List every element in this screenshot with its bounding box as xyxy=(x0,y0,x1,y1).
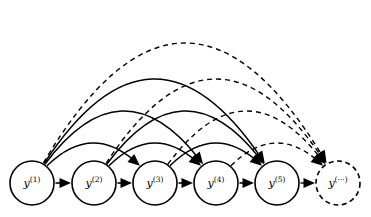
arrowhead-chain-y3-to-y4 xyxy=(182,178,194,188)
node-ydots[interactable]: y(···) xyxy=(316,161,360,205)
node-y4[interactable]: y(4) xyxy=(194,161,238,205)
skip-edge-y1-to-ydots xyxy=(43,43,322,163)
skip-edge-layer xyxy=(43,43,326,166)
node-label-superscript-y1: (1) xyxy=(30,175,41,184)
node-y1[interactable]: y(1) xyxy=(10,161,54,205)
node-label-superscript-ydots: (···) xyxy=(335,175,348,184)
node-y2[interactable]: y(2) xyxy=(72,161,116,205)
node-label-superscript-y4: (4) xyxy=(214,175,225,184)
node-label-superscript-y3: (3) xyxy=(153,175,164,184)
arrowhead-chain-y2-to-y3 xyxy=(121,178,133,188)
node-y5[interactable]: y(5) xyxy=(255,161,299,205)
diagram-canvas: y(1)y(2)y(3)y(4)y(5)y(···) xyxy=(0,0,371,217)
node-label-superscript-y2: (2) xyxy=(92,175,103,184)
diagram-svg: y(1)y(2)y(3)y(4)y(5)y(···) xyxy=(0,0,371,217)
node-label-superscript-y5: (5) xyxy=(275,175,286,184)
arrowhead-chain-y1-to-y2 xyxy=(60,178,72,188)
arrowhead-chain-y5-to-ydots xyxy=(304,178,316,188)
arrowhead-chain-y4-to-y5 xyxy=(243,178,255,188)
node-y3[interactable]: y(3) xyxy=(133,161,177,205)
skip-edge-y2-to-ydots xyxy=(106,79,321,163)
skip-edge-y1-to-y4 xyxy=(45,111,198,164)
